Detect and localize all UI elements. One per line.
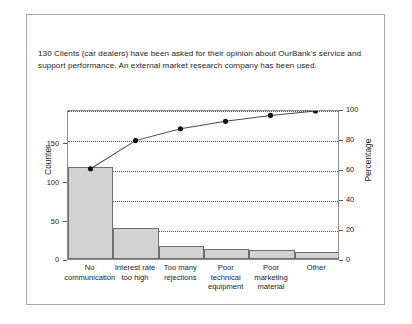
secondary-y-tick-mark: [339, 200, 343, 201]
data-point-marker: [178, 126, 183, 131]
secondary-y-tick-label: 20: [346, 225, 372, 234]
plot-area: [67, 110, 339, 260]
y-tick-label: 50: [33, 217, 59, 226]
pareto-chart: Counter Percentage 050100150 02040608010…: [27, 95, 386, 306]
cumulative-markers: [88, 111, 318, 171]
data-point-marker: [223, 119, 228, 124]
data-point-marker: [133, 138, 138, 143]
cumulative-polyline: [91, 111, 316, 169]
secondary-y-tick-mark: [339, 260, 343, 261]
y-tick-label: 0: [33, 255, 59, 264]
secondary-y-tick-mark: [339, 110, 343, 111]
secondary-y-tick-label: 100: [346, 105, 372, 114]
data-point-marker: [268, 113, 273, 118]
y-tick-label: 150: [33, 139, 59, 148]
secondary-y-tick-mark: [339, 230, 343, 231]
chart-card: 130 Clients (car dealers) have been aske…: [26, 14, 385, 305]
secondary-y-tick-mark: [339, 140, 343, 141]
cumulative-line-series: [68, 111, 338, 259]
secondary-y-tick-label: 40: [346, 195, 372, 204]
secondary-y-tick-mark: [339, 170, 343, 171]
secondary-y-tick-label: 60: [346, 165, 372, 174]
caption-text: 130 Clients (car dealers) have been aske…: [38, 48, 374, 73]
y-tick-mark: [63, 260, 67, 261]
y-tick-label: 100: [33, 178, 59, 187]
data-point-marker: [88, 166, 93, 171]
secondary-y-tick-label: 0: [346, 255, 372, 264]
data-point-marker: [313, 111, 318, 114]
x-tick-label: Other: [288, 263, 345, 273]
secondary-y-tick-label: 80: [346, 135, 372, 144]
